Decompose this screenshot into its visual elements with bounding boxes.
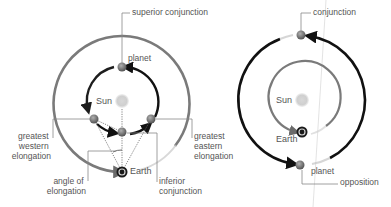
label-sun-left: Sun xyxy=(96,96,112,106)
label-earth-right: Earth xyxy=(276,134,298,144)
label-superior-conjunction: superior conjunction xyxy=(132,7,208,17)
right-diagram: conjunction Sun Earth planet opposition xyxy=(238,0,379,207)
planet-orbit-left-fade xyxy=(280,35,293,39)
planet-orbit-arc-bottom-left xyxy=(97,124,115,133)
planet-inferior-conjunction xyxy=(118,128,127,137)
label-inferior-conjunction: inferior conjunction xyxy=(159,176,202,196)
earth-left xyxy=(117,167,128,178)
label-planet-right: planet xyxy=(311,166,335,176)
label-conjunction: conjunction xyxy=(313,7,356,17)
label-opposition: opposition xyxy=(340,177,379,187)
leader-conjunction xyxy=(301,13,311,31)
left-diagram: superior conjunction planet Sun greatest… xyxy=(12,7,234,196)
planet-orbit-arc-top-right xyxy=(126,67,158,117)
sun-right xyxy=(295,93,309,107)
planet-conjunction xyxy=(297,31,306,40)
planet-opposition xyxy=(296,161,305,170)
sun-left xyxy=(115,94,129,108)
planet-western-elongation xyxy=(90,115,99,124)
label-greatest-eastern-elongation: greatest eastern elongation xyxy=(194,131,234,161)
sightline-western xyxy=(94,119,120,168)
label-planet-left: planet xyxy=(128,53,152,63)
earth-right xyxy=(297,127,308,138)
planet-orbit-right-fade xyxy=(312,158,330,164)
planet-eastern-elongation xyxy=(147,115,156,124)
sightline-eastern xyxy=(124,119,151,168)
planet-superior-conjunction xyxy=(118,63,127,72)
label-sun-right: Sun xyxy=(276,95,292,105)
label-angle-of-elongation: angle of elongation xyxy=(47,176,87,196)
planetary-configurations-diagram: superior conjunction planet Sun greatest… xyxy=(0,0,391,207)
earth-orbit-right-fade xyxy=(311,126,326,134)
label-earth-left: Earth xyxy=(130,166,152,176)
label-greatest-western-elongation: greatest western elongation xyxy=(12,131,52,161)
